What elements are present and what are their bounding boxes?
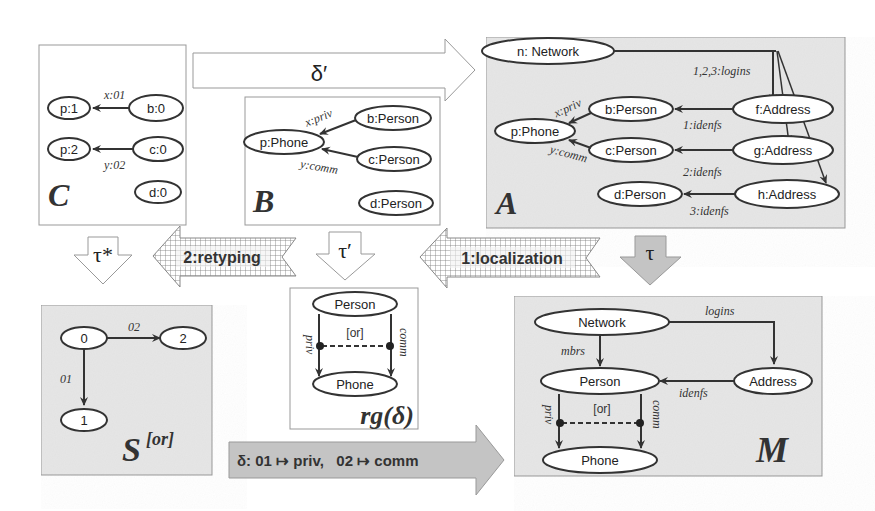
- panel-b-title: B: [252, 183, 274, 219]
- svg-text:d:Person: d:Person: [370, 196, 422, 211]
- edge-label-y02: y:02: [103, 158, 125, 172]
- node-c-person-a: c:Person: [589, 138, 673, 162]
- tau-arrow: τ: [620, 236, 681, 285]
- node-2: 2: [160, 327, 206, 349]
- edge-label-m-idenfs: idenfs: [679, 386, 708, 400]
- svg-text:b:0: b:0: [147, 101, 165, 116]
- localization-arrow: 1:localization: [420, 228, 600, 288]
- svg-text:f:Address: f:Address: [756, 102, 811, 117]
- node-p1: p:1: [48, 97, 90, 119]
- or-dot-right: [386, 342, 394, 350]
- edge-label-02: 02: [128, 320, 140, 334]
- delta-label: δ: 01 ↦ priv, 02 ↦ comm: [237, 452, 419, 469]
- node-c0: c:0: [133, 137, 183, 161]
- edge-label-m-priv: priv: [542, 404, 556, 425]
- svg-text:p:1: p:1: [60, 101, 78, 116]
- svg-text:b:Person: b:Person: [605, 102, 657, 117]
- svg-text:g:Address: g:Address: [754, 143, 813, 158]
- node-f-address: f:Address: [733, 95, 833, 123]
- svg-text:d:Person: d:Person: [614, 187, 666, 202]
- node-p-phone: p:Phone: [244, 130, 324, 154]
- svg-text:p:Phone: p:Phone: [260, 135, 308, 150]
- svg-text:d:0: d:0: [149, 185, 167, 200]
- tau-prime-label: τ′: [338, 238, 352, 263]
- svg-text:Address: Address: [749, 374, 797, 389]
- svg-text:h:Address: h:Address: [758, 187, 817, 202]
- svg-text:c:Person: c:Person: [368, 152, 419, 167]
- svg-text:Phone: Phone: [336, 377, 374, 392]
- panel-s-or: 02 01 0 2 1 S [or]: [41, 305, 212, 475]
- svg-text:p:Phone: p:Phone: [511, 124, 559, 139]
- edge-label-rg-priv: priv: [303, 334, 317, 355]
- svg-text:Phone: Phone: [581, 453, 619, 468]
- svg-text:Network: Network: [578, 315, 626, 330]
- node-p2: p:2: [48, 138, 90, 160]
- node-b-person: b:Person: [355, 106, 431, 130]
- diagram-canvas: p:1 b:0 p:2 c:0 d:0 x:01 y:02 C δ′: [0, 0, 875, 511]
- node-b0: b:0: [129, 95, 183, 121]
- svg-text:c:Person: c:Person: [605, 143, 656, 158]
- edge-label-3-idenfs: 3:idenfs: [689, 204, 729, 218]
- node-rg-phone: Phone: [313, 372, 397, 396]
- edge-label-x01: x:01: [103, 88, 125, 102]
- panel-b: p:Phone b:Person c:Person d:Person x:pri…: [244, 97, 440, 225]
- node-d-person-a: d:Person: [598, 182, 682, 206]
- edge-label-m-logins: logins: [705, 304, 735, 318]
- node-m-person: Person: [541, 368, 659, 394]
- retyping-arrow: 2:retyping: [153, 226, 296, 287]
- node-d0: d:0: [135, 181, 181, 203]
- m-or-dot-right: [636, 419, 644, 427]
- edge-label-01: 01: [60, 372, 72, 386]
- edge-label-1-idenfs: 1:idenfs: [683, 118, 722, 132]
- panel-s-title: S: [122, 431, 141, 468]
- node-0: 0: [61, 327, 107, 349]
- svg-text:n: Network: n: Network: [517, 44, 580, 59]
- tau-star-label: τ*: [93, 242, 113, 267]
- node-d-person: d:Person: [359, 191, 433, 215]
- edge-label-logins: 1,2,3:logins: [693, 64, 751, 78]
- retyping-label: 2:retyping: [183, 249, 260, 266]
- delta-prime-label: δ′: [311, 61, 327, 86]
- delta-prime-arrow: δ′: [193, 39, 475, 101]
- tau-label: τ: [646, 240, 655, 265]
- panel-c: p:1 b:0 p:2 c:0 d:0 x:01 y:02 C: [39, 45, 186, 225]
- svg-text:2: 2: [179, 331, 186, 346]
- panel-rg-delta: [or] priv comm Person Phone rg(δ): [290, 288, 418, 430]
- node-p-phone-a: p:Phone: [495, 119, 575, 143]
- svg-text:Person: Person: [579, 374, 620, 389]
- tau-star-arrow: τ*: [74, 237, 132, 284]
- node-b-person-a: b:Person: [589, 97, 673, 121]
- localization-label: 1:localization: [461, 250, 562, 267]
- svg-text:c:0: c:0: [149, 142, 166, 157]
- tau-prime-arrow: τ′: [316, 232, 375, 280]
- node-rg-person: Person: [313, 292, 397, 316]
- node-m-address: Address: [734, 368, 812, 394]
- panel-m-title: M: [755, 430, 790, 470]
- or-constraint-label: [or]: [346, 326, 363, 340]
- panel-a: 1,2,3:logins n: Network b:Person f:Addre…: [482, 37, 845, 228]
- m-or-constraint-label: [or]: [593, 402, 610, 416]
- edge-label-m-comm: comm: [650, 400, 664, 429]
- panel-a-title: A: [494, 185, 517, 221]
- node-c-person: c:Person: [357, 147, 431, 171]
- svg-text:1: 1: [80, 413, 87, 428]
- node-n-network: n: Network: [482, 38, 614, 64]
- edge-label-m-mbrs: mbrs: [561, 344, 585, 358]
- svg-text:p:2: p:2: [60, 142, 78, 157]
- node-1: 1: [61, 409, 107, 431]
- edge-label-2-idenfs: 2:idenfs: [683, 165, 722, 179]
- node-m-phone: Phone: [543, 447, 657, 473]
- panel-s-superscript: [or]: [146, 429, 174, 449]
- m-or-dot-left: [556, 419, 564, 427]
- svg-text:Person: Person: [334, 297, 375, 312]
- panel-c-title: C: [48, 177, 70, 213]
- node-m-network: Network: [535, 309, 669, 335]
- panel-rg-title: rg(δ): [360, 401, 414, 430]
- node-h-address: h:Address: [735, 180, 839, 208]
- panel-m: logins mbrs idenfs [or] priv comm Networ…: [514, 296, 822, 476]
- svg-text:b:Person: b:Person: [367, 111, 419, 126]
- svg-text:0: 0: [80, 331, 87, 346]
- edge-label-rg-comm: comm: [397, 328, 411, 357]
- node-g-address: g:Address: [733, 136, 833, 164]
- delta-arrow: δ: 01 ↦ priv, 02 ↦ comm: [229, 425, 504, 495]
